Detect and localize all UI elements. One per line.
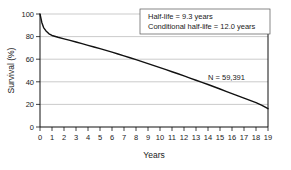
x-tick-label: 14 (204, 133, 212, 142)
x-tick-label: 13 (192, 133, 200, 142)
y-tick-marks (36, 14, 40, 127)
x-tick-marks (40, 127, 268, 131)
y-tick-label: 40 (26, 78, 34, 87)
x-axis-title: Years (143, 150, 164, 160)
y-tick-label: 80 (26, 32, 34, 41)
x-tick-label: 8 (134, 133, 138, 142)
x-tick-label: 3 (74, 133, 78, 142)
x-tick-label: 17 (240, 133, 248, 142)
y-tick-label: 20 (26, 100, 34, 109)
x-tick-label: 19 (264, 133, 272, 142)
y-tick-label: 60 (26, 55, 34, 64)
y-tick-label: 0 (30, 123, 34, 132)
half-life-line-1: Half-life = 9.3 years (148, 12, 213, 21)
y-tick-labels: 100 80 60 40 20 0 (21, 10, 34, 132)
x-tick-label: 18 (252, 133, 260, 142)
x-tick-label: 9 (146, 133, 150, 142)
x-tick-label: 0 (38, 133, 42, 142)
x-tick-labels: 0 1 2 3 4 5 6 7 8 9 10 11 12 13 14 15 16… (38, 133, 272, 142)
x-tick-label: 4 (86, 133, 90, 142)
x-tick-label: 11 (168, 133, 176, 142)
x-tick-label: 5 (98, 133, 102, 142)
survival-chart-figure: 100 80 60 40 20 0 (0, 0, 291, 170)
y-tick-label: 100 (21, 10, 34, 19)
chart-canvas: 100 80 60 40 20 0 (0, 0, 291, 170)
y-axis-title: Survival (%) (6, 47, 16, 93)
x-tick-label: 1 (50, 133, 54, 142)
x-tick-label: 7 (122, 133, 126, 142)
x-tick-label: 15 (216, 133, 224, 142)
x-tick-label: 6 (110, 133, 114, 142)
sample-size-annotation: N = 59,391 (208, 73, 245, 82)
x-tick-label: 10 (156, 133, 164, 142)
x-tick-label: 16 (228, 133, 236, 142)
x-tick-label: 2 (62, 133, 66, 142)
x-tick-label: 12 (180, 133, 188, 142)
half-life-line-2: Conditional half-life = 12.0 years (148, 22, 256, 31)
